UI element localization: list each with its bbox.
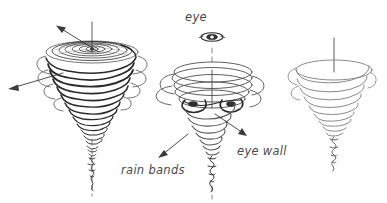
vortex-right-tail: [330, 137, 338, 171]
eye-ellipse: [199, 33, 225, 41]
vortex-left-coil-3: [50, 70, 133, 87]
vortex-left-coil-2: [48, 63, 134, 80]
label-eye-wall: eye wall: [237, 144, 287, 158]
vortex-left-coil-14: [87, 146, 98, 149]
hurricane-diagram: eye rain bands eye wall: [0, 0, 387, 203]
diagram-canvas: eye rain bands eye wall: [0, 0, 387, 203]
vortex-left-coil-16: [89, 154, 96, 156]
light-vortex-right: [288, 38, 376, 171]
vortex-left-coil-15: [88, 150, 97, 152]
label-eye: eye: [185, 10, 207, 24]
vortex-left-tail: [88, 156, 95, 191]
vortex-left-coils: [46, 45, 136, 156]
vortex-middle-coils: [185, 103, 235, 155]
vortex-middle-tail: [208, 156, 216, 192]
label-rain-bands: rain bands: [121, 163, 185, 177]
rain-bands-pointer: [158, 134, 188, 158]
